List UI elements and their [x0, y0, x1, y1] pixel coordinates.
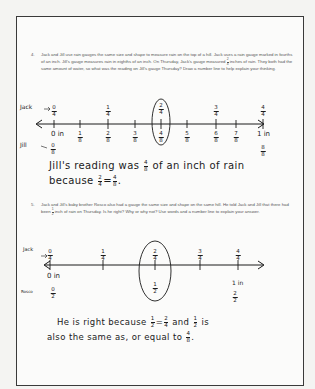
jill-tick-1: 18	[78, 131, 83, 143]
rosco-end-fraction: 22	[233, 291, 238, 303]
question-5-number: 5.	[31, 202, 35, 208]
jack-label: Jack	[20, 103, 32, 110]
jill-end-fraction: 88	[261, 145, 266, 157]
jack-label-2: Jack	[23, 246, 33, 252]
answer-fraction: 48	[144, 160, 148, 172]
jack-tick-2: 24	[159, 103, 164, 115]
question-5-answer-line-1: He is right because 12=24 and 12 is	[57, 316, 209, 328]
worksheet-page: 4. Jack and Jill use rain gauges the sam…	[16, 16, 304, 386]
zero-inch-label: 0 in	[51, 130, 64, 138]
jack2-tick-3: 34	[198, 249, 203, 261]
rosco-mid-fraction: 12	[153, 282, 158, 294]
question-5-prompt: 5. Jack and Jill's baby brother Rosco al…	[41, 202, 296, 216]
zero-inch-label-2: 0 in	[47, 272, 60, 280]
question-5-number-line: Jack Rosco 04 14 24 34 44 0 in 1 in 02 1…	[17, 217, 305, 327]
question-4-answer-line-1: Jill's reading was 48 of an inch of rain	[49, 160, 244, 172]
jack-tick-4: 44	[261, 105, 266, 117]
jack2-tick-1: 14	[101, 249, 106, 261]
jill-label: Jill	[20, 141, 27, 148]
jill-tick-2: 28	[106, 131, 111, 143]
jill-tick-6: 68	[214, 131, 219, 143]
question-5-fraction: 12	[52, 208, 54, 216]
jack2-tick-2: 24	[153, 249, 158, 261]
question-5-text-b: inch of rain on Thursday. Is he right? W…	[55, 209, 260, 214]
question-4-answer-line-2: because 24=48.	[49, 175, 121, 187]
jack-tick-1: 14	[106, 105, 111, 117]
number-line-drawing-2	[17, 217, 305, 327]
jill-tick-5: 58	[185, 131, 190, 143]
rosco-label: Rosco	[21, 289, 33, 294]
question-5-answer-line-2: also the same as, or equal to 48.	[47, 331, 194, 343]
one-inch-label-2: 1 in	[232, 279, 243, 286]
jack2-tick-0: 04	[48, 249, 53, 261]
jill-tick-3: 38	[133, 131, 138, 143]
rosco-start-fraction: 02	[51, 287, 56, 299]
question-4-number-line: Jack Jill 04 14 24 34 44 0 in 18 28 38 4…	[17, 17, 305, 217]
jill-tick-7: 78	[234, 131, 239, 143]
jack-tick-0: 04	[52, 105, 57, 117]
jack2-tick-4: 44	[236, 249, 241, 261]
jill-tick-4: 48	[159, 131, 164, 143]
one-inch-label: 1 in	[257, 130, 270, 138]
jill-start-fraction: 08	[51, 143, 56, 155]
number-line-drawing	[17, 17, 305, 217]
jack-tick-3: 34	[214, 105, 219, 117]
